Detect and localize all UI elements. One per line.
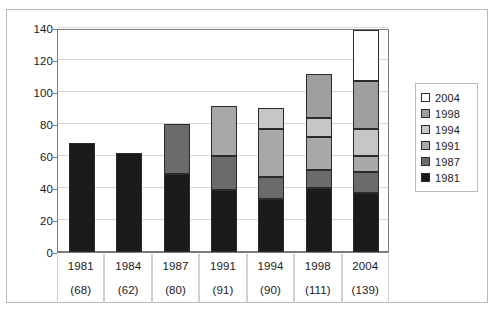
- x-axis-total-label: (80): [165, 284, 186, 296]
- legend-item[interactable]: 1991: [421, 138, 473, 153]
- chart-container: 020406080100120140 1981(68)1984(62)1987(…: [0, 0, 497, 316]
- y-axis-tick-label: 0: [5, 247, 53, 259]
- bar-segment[interactable]: [258, 108, 284, 129]
- x-axis-year-label: 1984: [115, 260, 141, 272]
- legend-item-label: 1994: [435, 124, 460, 136]
- bar-group[interactable]: [211, 28, 237, 252]
- legend-swatch-icon: [421, 93, 430, 102]
- y-axis-tick-label: 140: [5, 23, 53, 35]
- bar-segment[interactable]: [353, 156, 379, 172]
- y-axis: 020406080100120140: [0, 29, 53, 253]
- bar-segment[interactable]: [353, 129, 379, 156]
- x-axis-total-label: (90): [260, 284, 281, 296]
- bar-group[interactable]: [164, 28, 190, 252]
- bar-segment[interactable]: [353, 193, 379, 252]
- x-axis-year-label: 1991: [210, 260, 236, 272]
- legend-item-label: 1981: [435, 172, 460, 184]
- legend-item[interactable]: 1994: [421, 122, 473, 137]
- bar-segment[interactable]: [306, 137, 332, 171]
- legend-swatch-icon: [421, 157, 430, 166]
- legend-item[interactable]: 1981: [421, 170, 473, 185]
- x-axis-year-label: 2004: [352, 260, 378, 272]
- bar-segment[interactable]: [258, 177, 284, 199]
- legend-swatch-icon: [421, 141, 430, 150]
- x-axis-column: 1981(68): [57, 254, 104, 303]
- bar-series-group: [58, 30, 388, 252]
- x-axis-total-label: (68): [70, 284, 91, 296]
- legend-item-label: 1998: [435, 108, 460, 120]
- legend-swatch-icon: [421, 125, 430, 134]
- x-axis-column: 1984(62): [104, 254, 151, 303]
- bar-group[interactable]: [306, 28, 332, 252]
- x-axis-total-label: (91): [213, 284, 234, 296]
- x-axis-column: 1991(91): [199, 254, 246, 303]
- y-axis-tick-label: 40: [5, 183, 53, 195]
- x-axis-year-label: 1987: [163, 260, 189, 272]
- bar-group[interactable]: [258, 28, 284, 252]
- x-axis-total-label: (62): [118, 284, 139, 296]
- x-axis-column: 1998(111): [294, 254, 341, 303]
- x-axis-year-label: 1981: [68, 260, 94, 272]
- y-axis-tick-label: 60: [5, 151, 53, 163]
- legend-swatch-icon: [421, 173, 430, 182]
- bar-segment[interactable]: [353, 30, 379, 81]
- bar-segment[interactable]: [306, 118, 332, 137]
- legend-swatch-icon: [421, 109, 430, 118]
- bar-group[interactable]: [69, 28, 95, 252]
- chart-legend: 200419981994199119871981: [415, 83, 478, 192]
- bar-segment[interactable]: [164, 174, 190, 252]
- bar-segment[interactable]: [306, 74, 332, 117]
- x-axis-year-label: 1994: [257, 260, 283, 272]
- x-axis-column: 1987(80): [152, 254, 199, 303]
- y-axis-tick-label: 80: [5, 119, 53, 131]
- bar-segment[interactable]: [258, 199, 284, 252]
- x-axis-column: 1994(90): [247, 254, 294, 303]
- plot-area: [57, 29, 389, 253]
- y-axis-tick-label: 120: [5, 55, 53, 67]
- y-axis-tick-label: 100: [5, 87, 53, 99]
- bar-group[interactable]: [116, 28, 142, 252]
- bar-segment[interactable]: [353, 81, 379, 129]
- legend-item[interactable]: 1998: [421, 106, 473, 121]
- bar-segment[interactable]: [211, 156, 237, 190]
- bar-segment[interactable]: [306, 170, 332, 188]
- bar-segment[interactable]: [69, 143, 95, 252]
- x-axis-column: 2004(139): [342, 254, 389, 303]
- bar-segment[interactable]: [353, 172, 379, 193]
- bar-segment[interactable]: [116, 153, 142, 252]
- bar-segment[interactable]: [258, 129, 284, 177]
- legend-item-label: 1987: [435, 156, 460, 168]
- legend-item-label: 2004: [435, 92, 460, 104]
- x-axis-total-label: (139): [352, 284, 379, 296]
- legend-item[interactable]: 1987: [421, 154, 473, 169]
- x-axis: 1981(68)1984(62)1987(80)1991(91)1994(90)…: [57, 254, 389, 303]
- x-axis-total-label: (111): [305, 284, 331, 296]
- bar-segment[interactable]: [306, 188, 332, 252]
- legend-item-label: 1991: [435, 140, 460, 152]
- bar-group[interactable]: [353, 28, 379, 252]
- y-axis-tick-label: 20: [5, 215, 53, 227]
- bar-segment[interactable]: [211, 190, 237, 252]
- bar-segment[interactable]: [164, 124, 190, 174]
- bar-segment[interactable]: [211, 106, 237, 156]
- x-axis-year-label: 1998: [305, 260, 331, 272]
- legend-item[interactable]: 2004: [421, 90, 473, 105]
